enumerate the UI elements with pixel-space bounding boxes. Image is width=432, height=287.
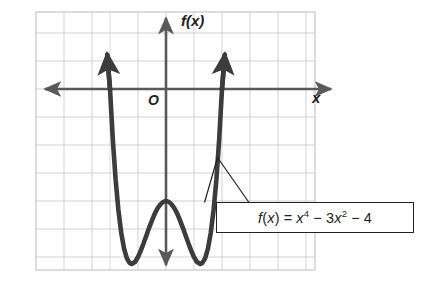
y-axis-label: f(x) — [181, 13, 204, 28]
equation-callout-box: f(x)=x4−3x2−4 — [216, 202, 414, 233]
equation-text: f(x)=x4−3x2−4 — [258, 210, 372, 226]
figure-container: f(x) x O f(x)=x4−3x2−4 — [0, 0, 432, 287]
x-axis-label: x — [312, 90, 320, 105]
coordinate-plane — [0, 0, 432, 287]
curve-arrow-right — [222, 55, 225, 89]
origin-label: O — [148, 93, 159, 107]
curve-arrow-left — [107, 55, 110, 89]
